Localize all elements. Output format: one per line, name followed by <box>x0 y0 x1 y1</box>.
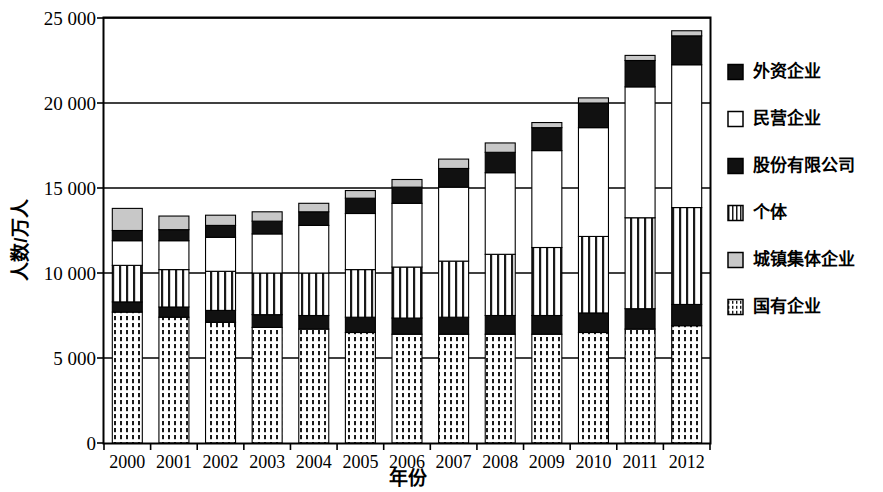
legend-label: 个体 <box>752 202 788 222</box>
legend-dashed-grid-swatch <box>728 300 743 315</box>
bars-group <box>112 31 701 443</box>
bar-segment <box>485 143 515 152</box>
bar-segment <box>252 212 282 221</box>
bar-segment <box>625 61 655 87</box>
bar-segment <box>625 87 655 218</box>
bar-segment <box>112 231 142 241</box>
y-tick-label: 15 000 <box>44 178 96 199</box>
y-tick-label: 25 000 <box>44 8 96 29</box>
legend-label: 股份有限公司 <box>753 155 855 175</box>
y-tick-label: 5 000 <box>53 348 96 369</box>
bar-segment <box>112 241 142 266</box>
bar-segment <box>252 327 282 443</box>
bar-segment <box>439 168 469 187</box>
bar-segment <box>299 329 329 443</box>
x-tick-label: 2003 <box>249 452 285 472</box>
bar-segment <box>672 65 702 208</box>
bar-segment <box>299 212 329 226</box>
y-tick-label: 20 000 <box>44 93 96 114</box>
bar-segment <box>392 203 422 267</box>
bar-segment <box>532 123 562 128</box>
bar-segment <box>532 128 562 151</box>
y-tick-label: 10 000 <box>44 263 96 284</box>
bar-segment <box>252 273 282 315</box>
x-tick-label: 2005 <box>342 452 378 472</box>
bar-segment <box>159 270 189 307</box>
bar-segment <box>672 208 702 305</box>
x-tick-label: 2009 <box>529 452 565 472</box>
legend-light-gray-swatch <box>728 253 743 268</box>
bar-segment <box>578 333 608 444</box>
bar-segment <box>672 36 702 65</box>
bar-segment <box>345 333 375 444</box>
bar-segment <box>159 241 189 270</box>
bar-segment <box>578 103 608 128</box>
bar-segment <box>206 225 236 237</box>
bar-segment <box>112 302 142 312</box>
bar-segment <box>299 273 329 316</box>
bar-segment <box>345 270 375 318</box>
bar-segment <box>532 248 562 316</box>
legend-vertical-stripe-swatch <box>728 206 743 221</box>
legend-solid-black-swatch <box>728 159 743 174</box>
stacked-bar-chart: 05 00010 00015 00020 00025 000 200020012… <box>0 0 883 492</box>
x-tick-label: 2012 <box>669 452 705 472</box>
bar-segment <box>578 128 608 237</box>
bar-segment <box>159 216 189 230</box>
bar-segment <box>578 98 608 103</box>
bar-segment <box>345 198 375 213</box>
x-tick-label: 2000 <box>109 452 145 472</box>
bar-segment <box>159 307 189 317</box>
bar-segment <box>578 236 608 313</box>
bar-segment <box>485 173 515 255</box>
bar-segment <box>485 254 515 315</box>
bar-segment <box>252 315 282 328</box>
bar-segment <box>625 309 655 329</box>
bar-segment <box>112 208 142 230</box>
x-tick-label: 2007 <box>436 452 472 472</box>
bar-segment <box>672 304 702 325</box>
legend-label: 外资企业 <box>753 61 821 81</box>
bar-segment <box>672 31 702 36</box>
bar-segment <box>206 310 236 322</box>
legend-solid-black-swatch <box>728 65 743 80</box>
bar-segment <box>206 237 236 271</box>
bar-segment <box>206 322 236 443</box>
bar-segment <box>392 318 422 334</box>
bar-segment <box>252 221 282 234</box>
legend-label: 国有企业 <box>753 296 821 316</box>
bar-segment <box>578 313 608 333</box>
bar-segment <box>392 180 422 188</box>
bar-segment <box>625 55 655 60</box>
legend-empty-white-swatch <box>728 112 743 127</box>
bar-segment <box>159 230 189 241</box>
legend-label: 城镇集体企业 <box>753 249 855 269</box>
bar-segment <box>345 317 375 332</box>
bar-segment <box>532 334 562 443</box>
bar-segment <box>112 312 142 443</box>
bar-segment <box>439 317 469 334</box>
bar-segment <box>439 187 469 261</box>
bar-segment <box>392 334 422 443</box>
bar-segment <box>625 218 655 309</box>
x-tick-label: 2011 <box>622 452 657 472</box>
x-tick-label: 2004 <box>296 452 332 472</box>
bar-segment <box>485 334 515 443</box>
bar-segment <box>392 267 422 318</box>
y-axis-ticks: 05 00010 00015 00020 00025 000 <box>44 8 104 454</box>
bar-segment <box>439 159 469 168</box>
bar-segment <box>532 151 562 248</box>
bar-segment <box>485 316 515 335</box>
x-tick-label: 2001 <box>156 452 192 472</box>
y-axis-title: 人数/万人 <box>9 198 31 280</box>
bar-segment <box>252 234 282 273</box>
bar-segment <box>159 317 189 443</box>
x-tick-label: 2008 <box>482 452 518 472</box>
bar-segment <box>299 203 329 212</box>
bar-segment <box>299 225 329 273</box>
bar-segment <box>206 271 236 310</box>
bar-segment <box>392 187 422 203</box>
bar-segment <box>206 215 236 225</box>
x-axis-title: 年份 <box>389 467 428 489</box>
bar-segment <box>625 329 655 443</box>
